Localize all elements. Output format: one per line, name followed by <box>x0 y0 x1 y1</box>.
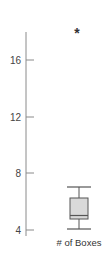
tick-label-4: 4 <box>15 225 21 236</box>
box-plot-boxes <box>67 187 91 229</box>
tick-label-12: 12 <box>10 112 22 123</box>
category-label: # of Boxes <box>57 237 102 248</box>
y-axis-ticks <box>26 60 34 230</box>
tick-label-16: 16 <box>10 55 22 66</box>
outlier-marker: * <box>74 25 80 41</box>
boxplot-chart: 16 12 8 4 * # of Boxes <box>0 0 108 255</box>
tick-label-8: 8 <box>15 168 21 179</box>
